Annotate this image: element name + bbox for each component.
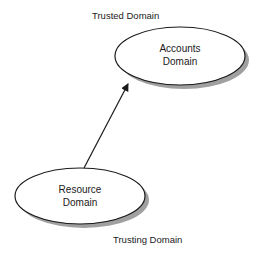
accounts-domain-node: Accounts Domain <box>115 27 249 89</box>
trusted-domain-label: Trusted Domain <box>92 10 159 21</box>
resource-domain-ellipse <box>15 168 145 224</box>
resource-domain-label-line2: Domain <box>63 197 97 208</box>
accounts-domain-label-line2: Domain <box>163 56 197 67</box>
trust-diagram: Accounts Domain Resource Domain Trusted … <box>0 0 260 255</box>
accounts-domain-label-line1: Accounts <box>159 43 200 54</box>
resource-domain-node: Resource Domain <box>15 168 149 228</box>
diagram-svg: Accounts Domain Resource Domain Trusted … <box>0 0 260 255</box>
trust-arrow <box>84 84 128 168</box>
resource-domain-label-line1: Resource <box>59 184 102 195</box>
trusting-domain-label: Trusting Domain <box>113 234 182 245</box>
